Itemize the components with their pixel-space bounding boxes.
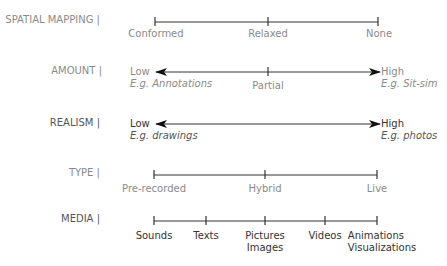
tick-label-sounds: Sounds: [136, 230, 173, 242]
row-label-realism: REALISM |: [50, 117, 100, 128]
tick-label-images: Images: [245, 242, 285, 254]
tick-label-live: Live: [367, 183, 387, 195]
type-scale: [154, 170, 377, 179]
realism-high-label: High: [381, 118, 437, 130]
amount-high-example: E.g. Sit-sim: [381, 78, 438, 90]
tick-label-animations-visualizations: Animations Visualizations: [348, 230, 416, 254]
realism-low-label: Low: [130, 118, 198, 130]
tick-label-pictures-images: Pictures Images: [245, 230, 285, 254]
realism-high-end: High E.g. photos: [381, 118, 437, 142]
row-label-spatial-mapping: SPATIAL MAPPING |: [5, 14, 100, 25]
tick-label-conformed: Conformed: [128, 28, 183, 40]
realism-high-example: E.g. photos: [381, 130, 437, 142]
tick-label-partial: Partial: [252, 80, 283, 92]
amount-low-example: E.g. Annotations: [130, 78, 212, 90]
tick-label-animations: Animations: [348, 230, 416, 242]
spatial-mapping-scale: [155, 17, 378, 26]
amount-high-label: High: [381, 66, 438, 78]
amount-low-end: Low E.g. Annotations: [130, 66, 212, 90]
tick-label-hybrid: Hybrid: [248, 183, 281, 195]
tick-label-pre-recorded: Pre-recorded: [122, 183, 186, 195]
amount-low-label: Low: [130, 66, 212, 78]
tick-label-visualizations: Visualizations: [348, 242, 416, 254]
realism-low-end: Low E.g. drawings: [130, 118, 198, 142]
tick-label-pictures: Pictures: [245, 230, 285, 242]
row-label-type: TYPE |: [69, 167, 100, 178]
tick-label-videos: Videos: [308, 230, 341, 242]
media-scale: [154, 216, 377, 225]
tick-label-relaxed: Relaxed: [248, 28, 288, 40]
row-label-amount: AMOUNT |: [51, 65, 102, 76]
tick-label-texts: Texts: [193, 230, 218, 242]
tick-label-none: None: [366, 28, 392, 40]
row-label-media: MEDIA |: [61, 213, 100, 224]
realism-low-example: E.g. drawings: [130, 130, 198, 142]
amount-high-end: High E.g. Sit-sim: [381, 66, 438, 90]
